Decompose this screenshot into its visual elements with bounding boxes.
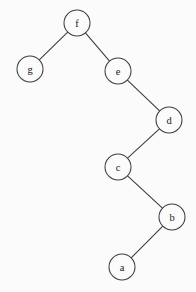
tree-diagram: fgedcba bbox=[0, 0, 196, 292]
node-circle-a[interactable] bbox=[109, 254, 135, 280]
tree-node-e[interactable]: e bbox=[105, 58, 131, 84]
tree-node-b[interactable]: b bbox=[159, 204, 185, 230]
tree-node-a[interactable]: a bbox=[109, 254, 135, 280]
node-circle-f[interactable] bbox=[64, 10, 90, 36]
tree-node-f[interactable]: f bbox=[64, 10, 90, 36]
node-circle-c[interactable] bbox=[105, 154, 131, 180]
node-circle-e[interactable] bbox=[105, 58, 131, 84]
node-circle-b[interactable] bbox=[159, 204, 185, 230]
diagram-background bbox=[0, 0, 196, 292]
tree-node-c[interactable]: c bbox=[105, 154, 131, 180]
tree-node-g[interactable]: g bbox=[17, 56, 43, 82]
node-circle-g[interactable] bbox=[17, 56, 43, 82]
node-circle-d[interactable] bbox=[156, 107, 182, 133]
tree-node-d[interactable]: d bbox=[156, 107, 182, 133]
